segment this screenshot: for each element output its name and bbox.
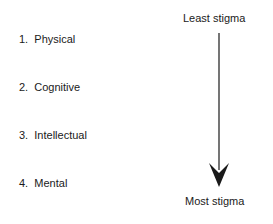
down-arrow-icon xyxy=(0,0,273,224)
